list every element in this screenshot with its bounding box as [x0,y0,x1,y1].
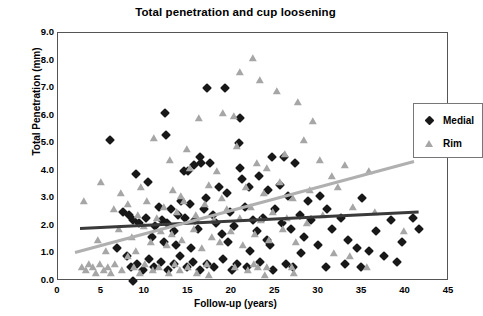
data-point-medial [235,163,245,173]
data-point-rim [198,244,206,251]
data-point-medial [343,235,353,245]
data-point-rim [334,184,342,191]
data-point-rim [254,264,262,271]
data-point-medial [408,213,418,223]
x-tick-label: 10 [129,284,159,295]
data-point-rim [175,266,183,273]
data-point-rim [268,208,276,215]
data-point-rim [276,178,284,185]
data-point-rim [263,264,271,271]
data-point-medial [205,158,215,168]
data-point-medial [303,196,313,206]
diamond-marker-icon [422,117,436,124]
data-point-rim [135,269,143,276]
data-point-rim [273,87,281,94]
data-point-rim [201,200,209,207]
x-tick-label: 35 [346,284,376,295]
data-point-rim [231,264,239,271]
data-point-rim [132,247,140,254]
data-point-medial [112,243,122,253]
data-point-medial [202,83,212,93]
data-point-rim [265,236,273,243]
page-title: Total penetration and cup loosening [0,6,471,18]
data-point-rim [227,228,235,235]
data-point-medial [214,182,224,192]
data-point-rim [236,68,244,75]
data-point-medial [186,243,196,253]
y-tick-label: 8.0 [4,54,54,65]
legend-label-rim: Rim [443,138,462,149]
data-point-medial [105,136,115,146]
data-point-medial [175,251,185,261]
data-point-rim [173,208,181,215]
data-point-rim [166,156,174,163]
data-point-rim [102,247,110,254]
data-point-medial [296,248,306,258]
data-point-rim [107,269,115,276]
data-point-rim [290,269,298,276]
data-point-rim [142,197,150,204]
data-point-rim [248,54,256,61]
data-point-rim [205,272,213,279]
data-point-medial [131,169,141,179]
data-point-rim [218,195,226,202]
y-tick-label: 9.0 [4,26,54,37]
data-point-medial [322,262,332,272]
data-point-medial [414,224,424,234]
data-point-medial [364,246,374,256]
legend-item-medial: Medial [422,112,474,128]
x-tick-label: 15 [172,284,202,295]
data-point-rim [134,211,142,218]
data-point-rim [155,264,163,271]
data-point-medial [223,237,233,247]
data-point-rim [147,239,155,246]
data-point-medial [357,193,367,203]
x-tick-label: 45 [433,284,463,295]
data-point-rim [261,272,269,279]
data-point-medial [352,243,362,253]
data-point-rim [184,264,192,271]
data-point-medial [379,251,389,261]
data-point-rim [165,269,173,276]
data-point-rim [141,261,149,268]
data-point-rim [213,167,221,174]
data-point-medial [254,171,264,181]
x-tick-label: 40 [390,284,420,295]
plot-area: Medial Rim [57,32,448,280]
x-tick-label: 5 [85,284,115,295]
data-point-rim [239,241,247,248]
data-point-rim [195,115,203,122]
data-point-medial [299,232,309,242]
data-point-rim [123,252,131,259]
data-point-rim [168,230,176,237]
data-point-rim [215,239,223,246]
data-point-rim [253,159,261,166]
data-point-rim [262,164,270,171]
data-point-medial [392,257,402,267]
data-point-medial [371,226,381,236]
data-point-medial [160,108,170,118]
data-point-medial [397,237,407,247]
y-axis-ticks: 0.01.02.03.04.05.06.07.08.09.0 [0,32,54,280]
data-point-medial [340,260,350,270]
data-point-rim [203,261,211,268]
data-point-rim [346,252,354,259]
legend-label-medial: Medial [443,115,474,126]
data-point-rim [255,76,263,83]
data-point-rim [315,156,323,163]
x-tick-label: 25 [259,284,289,295]
data-point-rim [309,117,317,124]
data-point-rim [178,236,186,243]
data-point-rim [180,197,188,204]
x-tick-label: 30 [303,284,333,295]
data-point-rim [330,250,338,257]
legend-box: Medial Rim [413,103,483,158]
data-point-medial [313,240,323,250]
data-point-rim [233,142,241,149]
data-point-rim [137,184,145,191]
data-point-rim [260,189,268,196]
data-point-rim [219,109,227,116]
data-point-rim [292,239,300,246]
data-point-rim [281,151,289,158]
data-point-rim [303,219,311,226]
